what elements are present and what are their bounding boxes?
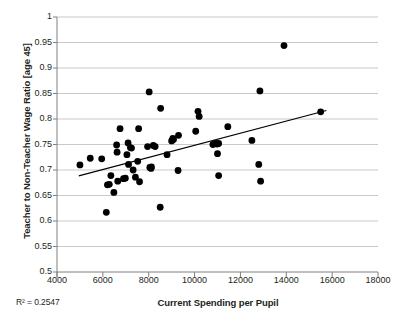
data-point: [98, 155, 105, 162]
x-tick-label-text: 12000: [217, 276, 263, 285]
y-tick-label: 0.75: [26, 140, 52, 150]
data-point: [134, 158, 141, 165]
data-point: [144, 143, 151, 150]
data-point: [164, 151, 171, 158]
y-tick-label: 1: [26, 12, 52, 22]
data-point: [117, 125, 124, 132]
y-tick-label: 0.7: [26, 165, 52, 175]
data-point: [175, 132, 182, 139]
y-tick-label-text: 0.65: [26, 191, 52, 200]
data-point: [215, 172, 222, 179]
y-tick-label: 0.65: [26, 191, 52, 201]
data-point: [130, 167, 137, 174]
data-point: [224, 123, 231, 130]
data-point: [257, 88, 264, 95]
data-point: [215, 140, 222, 147]
y-tick-label-text: 0.6: [26, 216, 52, 225]
data-point: [128, 145, 135, 152]
data-point: [157, 204, 164, 211]
x-axis-title: Current Spending per Pupil: [57, 297, 379, 308]
data-point: [77, 162, 84, 169]
data-point: [255, 161, 262, 168]
x-tick-label-text: 8000: [126, 276, 172, 285]
y-tick-label: 0.85: [26, 89, 52, 99]
data-point: [152, 143, 159, 150]
data-point: [175, 167, 182, 174]
y-tick-label-text: 0.7: [26, 165, 52, 174]
y-tick-marks: [53, 17, 57, 272]
x-tick-label-text: 14000: [263, 276, 309, 285]
data-point: [248, 137, 255, 144]
y-tick-label-text: 0.55: [26, 242, 52, 251]
y-tick-label-text: 0.8: [26, 114, 52, 123]
x-tick-label: 4000: [34, 276, 80, 288]
x-tick-label: 6000: [80, 276, 126, 288]
y-tick-label-text: 0.75: [26, 140, 52, 149]
data-point: [157, 105, 164, 112]
y-tick-label-text: 0.9: [26, 63, 52, 72]
data-point: [135, 125, 142, 132]
data-point: [103, 209, 110, 216]
data-point: [87, 155, 94, 162]
data-point: [214, 150, 221, 157]
plot-canvas: [0, 0, 401, 322]
x-tick-label-text: 4000: [34, 276, 80, 285]
data-point: [281, 42, 288, 49]
y-tick-label: 0.6: [26, 216, 52, 226]
x-tick-label-text: 10000: [172, 276, 218, 285]
data-point: [148, 164, 155, 171]
data-point: [113, 142, 120, 149]
data-point: [257, 178, 264, 185]
y-tick-label: 0.8: [26, 114, 52, 124]
x-tick-label-text: 6000: [80, 276, 126, 285]
y-tick-label: 0.9: [26, 63, 52, 73]
data-point: [317, 108, 324, 115]
data-point: [107, 172, 114, 179]
data-point: [146, 89, 153, 96]
x-tick-label: 18000: [355, 276, 401, 288]
x-tick-label: 14000: [263, 276, 309, 288]
x-tick-label: 12000: [217, 276, 263, 288]
axis-lines: [57, 17, 378, 278]
scatter-chart: Teacher to Non-Teacher Wage Ratio [age 4…: [0, 0, 401, 322]
data-point: [196, 113, 203, 120]
x-tick-label: 8000: [126, 276, 172, 288]
data-point: [122, 175, 129, 182]
r-squared-annotation: R² = 0.2547: [16, 297, 60, 307]
x-tick-label: 16000: [309, 276, 355, 288]
y-tick-label-text: 1: [26, 12, 52, 21]
y-tick-label: 0.95: [26, 38, 52, 48]
y-tick-label-text: 0.85: [26, 89, 52, 98]
x-tick-label-text: 16000: [309, 276, 355, 285]
data-point: [192, 128, 199, 135]
data-point: [136, 178, 143, 185]
data-point: [114, 149, 121, 156]
data-point: [106, 181, 113, 188]
x-tick-label-text: 18000: [355, 276, 401, 285]
data-point: [124, 151, 131, 158]
x-tick-label: 10000: [172, 276, 218, 288]
y-tick-label: 0.55: [26, 242, 52, 252]
data-point: [110, 189, 117, 196]
r-squared-text: R² = 0.2547: [16, 297, 60, 307]
data-point: [125, 161, 132, 168]
y-tick-label-text: 0.95: [26, 38, 52, 47]
